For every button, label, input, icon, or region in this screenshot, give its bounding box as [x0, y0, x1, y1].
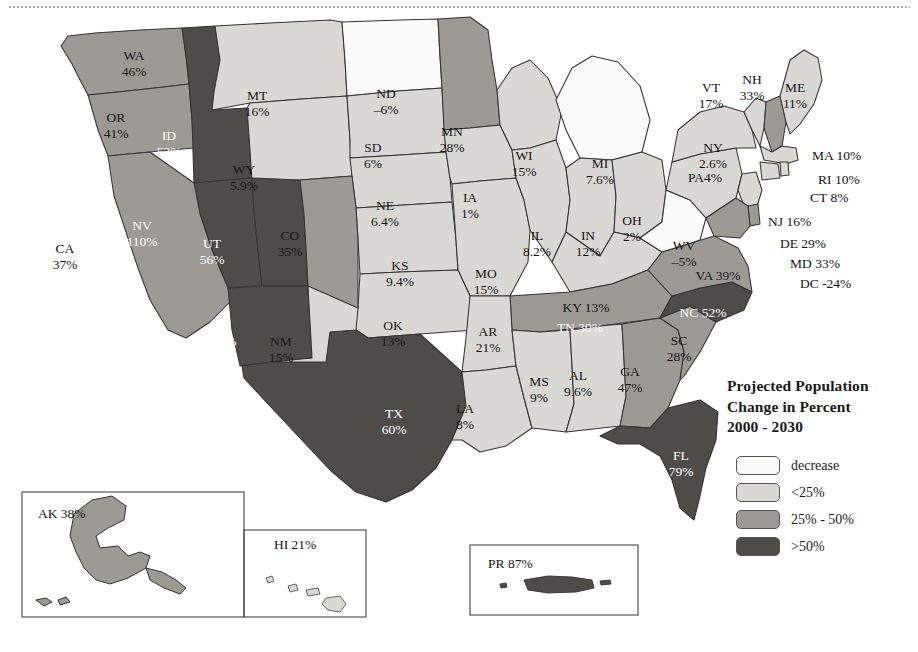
legend-items: decrease <25% 25% - 50% >50%	[736, 452, 854, 560]
legend-swatch-25to50	[736, 510, 780, 529]
label-SD-abbr: SD	[364, 140, 382, 155]
label-KS-value: 9.4%	[386, 274, 414, 289]
label-NE-value: 6.4%	[371, 214, 399, 229]
label-LA-abbr: LA	[456, 401, 474, 416]
state-WI[interactable]	[497, 60, 562, 150]
state-PR-mona[interactable]	[500, 583, 507, 588]
label-TN: TN 30%	[557, 320, 603, 335]
label-NH-abbr: NH	[742, 72, 762, 87]
label-WA-value: 46%	[122, 64, 147, 79]
label-OH-abbr: OH	[622, 213, 642, 228]
side-label-MD: MD 33%	[790, 256, 840, 271]
state-ND[interactable]	[342, 19, 442, 96]
label-MS-abbr: MS	[529, 374, 549, 389]
legend-title-line1: Projected Population	[727, 376, 912, 397]
label-IL-abbr: IL	[531, 228, 544, 243]
label-TX-value: 60%	[382, 422, 407, 437]
label-WA-abbr: WA	[124, 48, 145, 63]
label-VA: VA 39%	[695, 268, 740, 283]
label-WV-abbr-dark: WV	[673, 238, 696, 253]
label-NH-value: 33%	[740, 88, 765, 103]
state-HI-maui[interactable]	[306, 588, 320, 596]
label-OH-value: 2%	[623, 229, 641, 244]
label-FL-abbr: FL	[673, 448, 689, 463]
label-MS-value: 9%	[530, 390, 548, 405]
label-WY-value: 5.9%	[230, 178, 258, 193]
label-SC-abbr: SC	[671, 333, 688, 348]
legend-swatch-under25	[736, 483, 780, 502]
label-CA-abbr: CA	[56, 241, 75, 256]
label-MT-abbr: MT	[247, 88, 268, 103]
label-MT-value: 16%	[245, 104, 270, 119]
state-HI-kauai[interactable]	[266, 576, 274, 583]
legend-row-25to50[interactable]: 25% - 50%	[736, 506, 854, 533]
label-ME-abbr: ME	[785, 80, 805, 95]
state-AK-panhandle[interactable]	[146, 568, 186, 594]
label-FL-value: 79%	[669, 464, 694, 479]
state-HI-oahu[interactable]	[288, 584, 298, 592]
inset-label-HI: HI 21%	[274, 537, 316, 552]
label-MN-value: 28%	[440, 140, 465, 155]
legend-row-under25[interactable]: <25%	[736, 479, 854, 506]
label-IL-value: 8.2%	[523, 244, 551, 259]
inset-label-PR: PR 87%	[488, 556, 533, 571]
state-AK-aleutians[interactable]	[36, 598, 52, 606]
label-OR-abbr: OR	[107, 110, 126, 125]
side-label-MA: MA 10%	[812, 148, 861, 163]
label-CA-value: 37%	[53, 257, 78, 272]
state-RI[interactable]	[780, 162, 789, 176]
state-SD[interactable]	[347, 88, 446, 158]
label-WY-abbr: WY	[233, 162, 256, 177]
label-MI-abbr: MI	[592, 156, 609, 171]
label-NM-value: 15%	[269, 350, 294, 365]
label-KY: KY 13%	[562, 300, 609, 315]
legend-label-decrease: decrease	[791, 458, 839, 474]
state-PR-main[interactable]	[524, 576, 594, 593]
side-label-RI: RI 10%	[818, 172, 860, 187]
label-GA-value: 47%	[618, 380, 643, 395]
label-AL-abbr: AL	[569, 368, 587, 383]
label-SC-value: 28%	[667, 349, 692, 364]
state-MI[interactable]	[556, 56, 650, 160]
state-MN[interactable]	[438, 17, 500, 130]
label-CO-abbr: CO	[281, 228, 300, 243]
label-OK-value: 13%	[381, 334, 406, 349]
state-MT[interactable]	[212, 20, 347, 110]
inset-label-AK: AK 38%	[38, 506, 86, 521]
label-ID-value: 52%	[157, 144, 182, 159]
legend-label-over50: >50%	[791, 539, 825, 555]
state-PR-vieques[interactable]	[600, 580, 611, 585]
label-OR-value: 41%	[104, 126, 129, 141]
state-HI-bigisland[interactable]	[322, 596, 346, 612]
legend-title-line3: 2000 - 2030	[727, 417, 912, 438]
label-KS-abbr: KS	[391, 258, 408, 273]
legend-row-decrease[interactable]: decrease	[736, 452, 854, 479]
label-UT-abbr: UT	[203, 236, 222, 251]
side-label-NJ: NJ 16%	[768, 214, 811, 229]
label-AR-abbr: AR	[479, 324, 498, 339]
label-WI-abbr: WI	[515, 148, 533, 163]
label-VT-abbr: VT	[702, 80, 721, 95]
label-ME-value: 11%	[783, 96, 807, 111]
legend-row-over50[interactable]: >50%	[736, 533, 854, 560]
state-CT[interactable]	[760, 162, 780, 180]
label-NM-abbr: NM	[270, 334, 292, 349]
legend-title: Projected Population Change in Percent 2…	[727, 376, 912, 438]
legend-label-25to50: 25% - 50%	[791, 512, 854, 528]
legend-label-under25: <25%	[791, 485, 825, 501]
state-AK-aleutians2[interactable]	[58, 597, 70, 605]
state-MA[interactable]	[760, 146, 798, 164]
label-GA-abbr: GA	[620, 364, 640, 379]
label-PA: PA4%	[688, 170, 722, 185]
label-NY-value: 2.6%	[699, 156, 727, 171]
label-MI-value: 7.6%	[586, 172, 614, 187]
label-AL-value: 9.6%	[564, 384, 592, 399]
label-NV-abbr: NV	[132, 218, 152, 233]
side-label-DE: DE 29%	[780, 236, 826, 251]
label-NE-abbr: NE	[376, 198, 394, 213]
side-label-CT: CT 8%	[810, 190, 848, 205]
label-CO-value: 35%	[278, 244, 303, 259]
label-IN-value: 12%	[576, 244, 601, 259]
map-figure: WA 46% OR 41% ID 52% MT 16% ND –6% WY 5.…	[0, 0, 918, 652]
label-NC: NC 52%	[680, 305, 727, 320]
